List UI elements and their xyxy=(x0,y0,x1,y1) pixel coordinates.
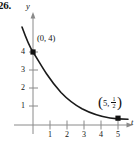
left-paren: ( xyxy=(98,96,103,108)
right-paren: ) xyxy=(117,96,122,108)
x-tick-label-3: 3 xyxy=(79,130,89,139)
one-half-fraction: 12 xyxy=(111,96,116,109)
x-tick-label-2: 2 xyxy=(62,130,72,139)
y-tick-label-4: 4 xyxy=(18,47,28,56)
fraction-denominator: 2 xyxy=(111,103,116,109)
point-b-comma: , xyxy=(107,98,109,108)
x-tick-label-5: 5 xyxy=(113,130,123,139)
y-axis-label: y xyxy=(26,2,30,11)
y-axis xyxy=(31,12,36,134)
data-point-marker-a xyxy=(30,49,35,54)
t-axis-label: t xyxy=(131,118,133,127)
x-tick-label-4: 4 xyxy=(96,130,106,139)
t-axis xyxy=(14,123,133,128)
y-tick-label-1: 1 xyxy=(18,101,28,110)
y-tick-label-2: 2 xyxy=(18,83,28,92)
data-point-marker-b xyxy=(115,116,120,121)
point-label-0-4: (0, 4) xyxy=(37,33,55,43)
exponential-decay-figure: 26. y xyxy=(0,0,140,144)
point-label-5-one-half: (5,12) xyxy=(98,96,122,109)
y-tick-label-3: 3 xyxy=(18,65,28,74)
x-tick-label-1: 1 xyxy=(45,130,55,139)
